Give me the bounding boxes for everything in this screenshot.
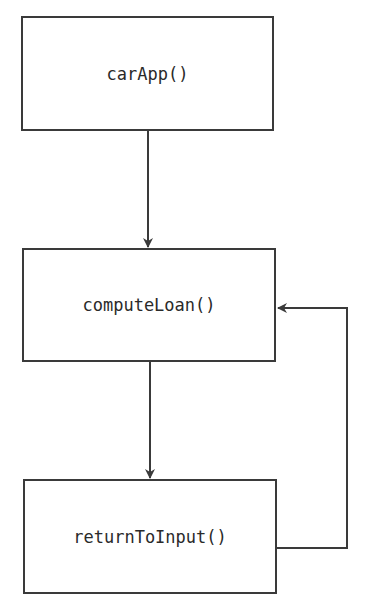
node-carapp: carApp() [21,16,274,131]
edge-returntoinput-to-computeloan [276,308,347,548]
node-label: carApp() [107,64,189,84]
node-label: computeLoan() [82,295,215,315]
node-label: returnToInput() [73,527,227,547]
node-returntoinput: returnToInput() [23,479,277,594]
node-computeloan: computeLoan() [22,248,276,362]
